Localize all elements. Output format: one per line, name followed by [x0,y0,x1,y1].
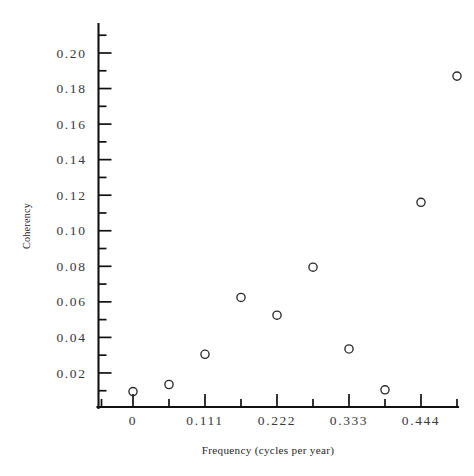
chart-canvas: 0.020.040.060.080.100.120.140.160.180.20… [0,0,474,476]
y-tick-label: 0.20 [56,46,86,61]
axes [98,24,459,408]
data-point [237,293,245,301]
y-tick-label: 0.10 [56,223,86,238]
data-point-markers [129,72,461,396]
x-tick-label: 0.222 [258,413,296,428]
x-tick-label: 0.444 [402,413,440,428]
data-point [417,198,425,206]
y-tick-label: 0.14 [56,152,86,167]
y-tick-label: 0.16 [56,117,86,132]
data-point [201,350,209,358]
y-tick-label: 0.08 [56,259,86,274]
y-tick-label: 0.12 [56,188,86,203]
x-tick-label: 0 [129,413,137,428]
data-point [381,386,389,394]
data-point [453,72,461,80]
x-tick-label: 0.333 [330,413,368,428]
data-point [165,380,173,388]
y-axis-title: Coherency [21,202,32,249]
x-axis-major-ticks [133,394,421,407]
x-axis-title: Frequency (cycles per year) [202,444,335,457]
data-point [309,263,317,271]
y-tick-label: 0.02 [56,366,86,381]
data-point [273,311,281,319]
coherency-scatter-figure: 0.020.040.060.080.100.120.140.160.180.20… [0,0,474,476]
data-point [345,345,353,353]
y-axis-tick-labels: 0.020.040.060.080.100.120.140.160.180.20 [56,46,86,381]
y-tick-label: 0.04 [56,330,86,345]
x-axis-tick-labels: 00.1110.2220.3330.444 [129,413,440,428]
x-axis-minor-ticks [101,399,457,407]
y-tick-label: 0.06 [56,294,86,309]
x-tick-label: 0.111 [186,413,223,428]
y-tick-label: 0.18 [56,81,86,96]
